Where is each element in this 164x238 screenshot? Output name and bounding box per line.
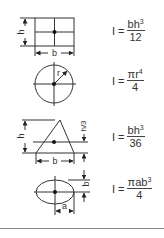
- triangle-formula: I = bh3 36: [112, 124, 145, 150]
- circle-formula: I = πr4 4: [112, 68, 144, 94]
- rect-width-label: b: [52, 48, 57, 58]
- rectangle-shape: [20, 18, 74, 56]
- circle-shape: [33, 62, 76, 106]
- bottom-divider: [0, 228, 164, 229]
- ellipse-formula: I = πab3 4: [112, 176, 152, 202]
- tri-centroid-label: h/3: [79, 120, 88, 132]
- rectangle-formula: I = bh3 12: [112, 18, 145, 44]
- ellipse-a-label: a: [62, 201, 67, 211]
- tri-height-label: h: [16, 133, 26, 138]
- tri-width-label: b: [52, 156, 57, 166]
- rect-height-label: h: [16, 29, 26, 34]
- ellipse-b-label: b: [81, 181, 91, 186]
- circle-radius-label: r: [57, 68, 60, 78]
